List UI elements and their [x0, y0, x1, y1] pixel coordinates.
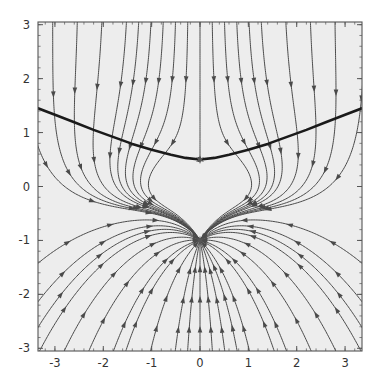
y-tick-label: -1: [19, 233, 30, 247]
y-tick-label: -2: [19, 287, 30, 301]
x-tick-label: -1: [146, 356, 157, 370]
x-tick-label: 0: [196, 356, 203, 370]
y-tick-label: 3: [23, 18, 30, 32]
x-tick-label: 2: [293, 356, 300, 370]
x-tick-label: -2: [98, 356, 109, 370]
x-tick-label: -3: [49, 356, 60, 370]
plot-canvas: -3-2-10123-3-2-10123: [0, 0, 379, 384]
x-tick-label: 3: [341, 356, 348, 370]
y-tick-label: 2: [23, 72, 30, 86]
x-tick-label: 1: [245, 356, 252, 370]
y-tick-label: 1: [23, 126, 30, 140]
stream-plot-figure: -3-2-10123-3-2-10123: [0, 0, 379, 384]
y-tick-label: 0: [23, 180, 30, 194]
y-tick-label: -3: [19, 341, 30, 355]
